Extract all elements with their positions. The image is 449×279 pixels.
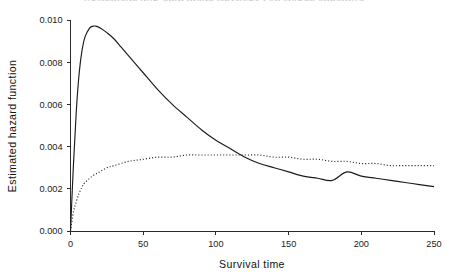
x-axis-title: Survival time [219, 258, 285, 270]
y-tick-label: 0.006 [40, 100, 63, 110]
series-hazard-solid [71, 26, 435, 231]
y-axis-ticks: 0.0000.0020.0040.0060.0080.010 [40, 15, 71, 236]
x-tick-label: 200 [354, 239, 369, 249]
chart-series-group [71, 26, 435, 231]
chart-svg: 0.0000.0020.0040.0060.0080.010 050100150… [0, 0, 449, 279]
y-tick-label: 0.004 [40, 142, 63, 152]
x-tick-label: 50 [138, 239, 148, 249]
hazard-function-chart: 0.0000.0020.0040.0060.0080.010 050100150… [0, 0, 449, 279]
x-tick-label: 250 [426, 239, 441, 249]
y-axis-title: Estimated hazard function [6, 60, 18, 193]
x-axis-ticks: 050100150200250 [68, 231, 442, 249]
y-tick-label: 0.000 [40, 226, 63, 236]
x-tick-label: 0 [68, 239, 73, 249]
series-hazard-dotted [71, 155, 435, 231]
x-tick-label: 100 [208, 239, 223, 249]
figure-page: NUMERICAL AND GRAPHICAL METHODS FOR MODE… [0, 0, 449, 279]
y-tick-label: 0.008 [40, 58, 63, 68]
x-tick-label: 150 [281, 239, 296, 249]
y-tick-label: 0.002 [40, 184, 63, 194]
y-tick-label: 0.010 [40, 15, 63, 25]
